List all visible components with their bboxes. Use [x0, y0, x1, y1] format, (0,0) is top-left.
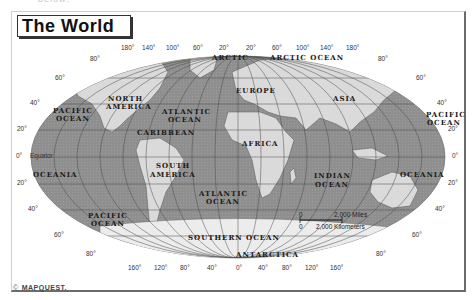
svg-text:100°: 100°	[166, 44, 180, 51]
label-caribbean: CARIBBEAN	[137, 128, 195, 137]
label-north-america-2: AMERICA	[105, 102, 152, 111]
svg-text:80°: 80°	[378, 55, 388, 62]
svg-text:80°: 80°	[86, 250, 96, 257]
svg-text:80°: 80°	[180, 264, 190, 271]
svg-text:20°: 20°	[246, 44, 256, 51]
label-pacific-left-2: OCEAN	[56, 114, 90, 123]
svg-text:60°: 60°	[55, 74, 65, 81]
svg-text:40°: 40°	[28, 205, 38, 212]
svg-text:180°: 180°	[121, 44, 135, 51]
svg-text:2,000 Kilometers: 2,000 Kilometers	[316, 223, 366, 230]
svg-text:80°: 80°	[376, 250, 386, 257]
svg-text:120°: 120°	[305, 264, 319, 271]
svg-text:80°: 80°	[90, 55, 100, 62]
label-southern-ocean: SOUTHERN OCEAN	[188, 233, 280, 242]
svg-text:180°: 180°	[346, 44, 360, 51]
world-map: 180° 140° 100° 60° 20° 20° 60° 100° 140°…	[0, 0, 475, 300]
label-south-america-1: SOUTH	[156, 161, 190, 170]
credit: ©MAPQUEST.	[13, 284, 67, 291]
svg-text:0°: 0°	[236, 264, 243, 271]
svg-text:60°: 60°	[272, 44, 282, 51]
label-europe: EUROPE	[236, 86, 276, 95]
mapquest-logo: MAPQUEST.	[22, 284, 67, 291]
label-indian-ocean-1: INDIAN	[314, 171, 351, 180]
label-pacific-south-2: OCEAN	[91, 219, 125, 228]
svg-text:140°: 140°	[142, 44, 156, 51]
svg-text:160°: 160°	[128, 264, 142, 271]
svg-text:60°: 60°	[54, 231, 64, 238]
svg-text:120°: 120°	[154, 264, 168, 271]
label-atlantic-south-2: OCEAN	[206, 197, 240, 206]
label-atlantic-north-2: OCEAN	[168, 115, 202, 124]
svg-text:20°: 20°	[17, 125, 27, 132]
map-title: The World	[17, 15, 131, 37]
svg-text:20°: 20°	[17, 179, 27, 186]
label-indian-ocean-2: OCEAN	[315, 180, 349, 189]
label-pacific-right-2: OCEAN	[427, 118, 461, 127]
svg-text:80°: 80°	[282, 264, 292, 271]
svg-text:0°: 0°	[16, 152, 23, 159]
label-asia: ASIA	[332, 94, 356, 103]
svg-text:40°: 40°	[435, 205, 445, 212]
svg-text:60°: 60°	[412, 231, 422, 238]
label-arctic: ARCTIC	[211, 53, 249, 62]
label-antarctica: ANTARCTICA	[235, 250, 299, 259]
label-south-america-2: AMERICA	[149, 170, 196, 179]
svg-text:2,000 Miles: 2,000 Miles	[334, 211, 368, 218]
svg-text:160°: 160°	[330, 264, 344, 271]
svg-text:100°: 100°	[296, 44, 310, 51]
longitude-labels-bottom: 160° 120° 80° 40° 0° 40° 80° 120° 160°	[128, 264, 344, 271]
svg-text:20°: 20°	[219, 44, 229, 51]
svg-text:20°: 20°	[448, 179, 458, 186]
label-oceania-right: OCEANIA	[400, 170, 445, 179]
label-oceania-left: OCEANIA	[33, 170, 78, 179]
svg-text:140°: 140°	[320, 44, 334, 51]
label-arctic-ocean: ARCTIC OCEAN	[269, 53, 344, 62]
longitude-labels-top: 180° 140° 100° 60° 20° 20° 60° 100° 140°…	[121, 44, 360, 51]
svg-text:40°: 40°	[437, 99, 447, 106]
label-africa: AFRICA	[241, 139, 279, 148]
svg-text:40°: 40°	[30, 99, 40, 106]
svg-text:40°: 40°	[258, 264, 268, 271]
svg-text:0: 0	[299, 211, 303, 218]
equator-label: Equator	[30, 152, 54, 160]
svg-text:0: 0	[299, 223, 303, 230]
svg-text:40°: 40°	[207, 264, 217, 271]
svg-text:60°: 60°	[416, 74, 426, 81]
svg-text:60°: 60°	[193, 44, 203, 51]
copyright-symbol: ©	[13, 284, 19, 291]
svg-text:0°: 0°	[452, 152, 459, 159]
